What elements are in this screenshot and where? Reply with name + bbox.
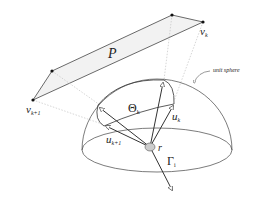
label-v-k1: vk+1 xyxy=(26,104,41,116)
polygon-p xyxy=(33,15,203,100)
r-point xyxy=(145,143,155,151)
unit-sphere-leader xyxy=(194,71,210,83)
diagram-canvas: P vk vk+1 unit sphere Θk uk uk+1 r Γi xyxy=(0,0,261,208)
label-u-k: uk xyxy=(172,111,180,123)
label-u-k1: uk+1 xyxy=(106,134,121,146)
label-theta-k: Θk xyxy=(128,102,140,115)
label-r: r xyxy=(158,143,162,153)
label-unit-sphere: unit sphere xyxy=(213,67,240,73)
label-polygon-p: P xyxy=(108,47,117,61)
label-v-k: vk xyxy=(200,26,208,38)
label-gamma-i: Γi xyxy=(167,155,176,168)
